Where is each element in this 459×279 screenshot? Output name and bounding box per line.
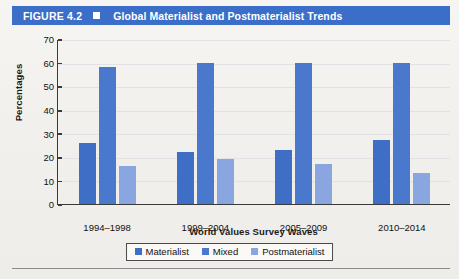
legend-label: Mixed	[213, 246, 238, 257]
bar-postmaterialist-2	[315, 164, 332, 204]
y-axis-tick-label: 60	[43, 58, 58, 68]
bar-group	[254, 40, 352, 204]
bar-materialist-1	[177, 152, 194, 204]
y-axis-tick-label: 10	[43, 176, 58, 186]
figure-number: FIGURE 4.2	[23, 10, 82, 22]
y-axis-label: Percentages	[13, 48, 24, 138]
bar-mixed-0	[99, 67, 116, 204]
y-axis-tick-mark	[58, 204, 62, 206]
bar-materialist-3	[373, 140, 390, 204]
legend-swatch-icon	[202, 248, 209, 255]
legend-item-materialist: Materialist	[135, 246, 189, 257]
square-icon	[93, 12, 100, 19]
plot-area: 706050403020100 1994–19981999–20042005–2…	[57, 40, 450, 205]
chart-container: Percentages 706050403020100 1994–1998199…	[0, 27, 459, 257]
bottom-divider	[12, 268, 450, 269]
bar-mixed-3	[393, 63, 410, 204]
x-axis-label: World Values Survey Waves	[57, 226, 450, 237]
legend-swatch-icon	[135, 248, 142, 255]
y-axis-tick-label: 40	[43, 105, 58, 115]
figure-title: Global Materialist and Postmaterialist T…	[113, 10, 342, 22]
bar-materialist-0	[79, 143, 96, 204]
y-axis-tick-label: 50	[43, 82, 58, 92]
legend-label: Postmaterialist	[262, 246, 324, 257]
bar-postmaterialist-0	[119, 166, 136, 204]
bar-postmaterialist-3	[413, 173, 430, 204]
y-axis-tick-label: 0	[49, 200, 58, 210]
legend-swatch-icon	[251, 248, 258, 255]
legend-item-mixed: Mixed	[202, 246, 238, 257]
bar-mixed-1	[197, 63, 214, 204]
bar-group	[352, 40, 450, 204]
bar-groups	[58, 40, 450, 204]
y-axis-tick-label: 70	[43, 35, 58, 45]
bar-group	[156, 40, 254, 204]
bar-group	[58, 40, 156, 204]
figure-header-band: FIGURE 4.2 Global Materialist and Postma…	[12, 6, 450, 25]
y-axis-tick-label: 20	[43, 153, 58, 163]
legend-item-postmaterialist: Postmaterialist	[251, 246, 324, 257]
bar-postmaterialist-1	[217, 159, 234, 204]
chart-legend: MaterialistMixedPostmaterialist	[126, 243, 334, 261]
y-axis-tick-label: 30	[43, 129, 58, 139]
legend-label: Materialist	[146, 246, 189, 257]
bar-materialist-2	[275, 150, 292, 204]
bar-mixed-2	[295, 63, 312, 204]
